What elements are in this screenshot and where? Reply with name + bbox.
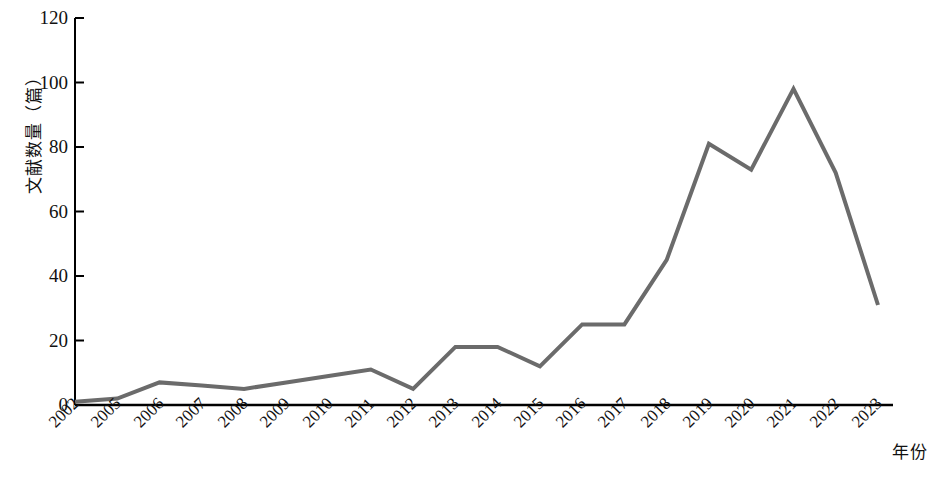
y-axis-tick-marks — [75, 18, 84, 405]
chart-figure: 文献数量（篇） 020406080100120 2002200520062007… — [0, 0, 933, 489]
figure-caption — [150, 479, 620, 488]
data-series-line — [75, 89, 878, 402]
x-axis-title: 年份 — [892, 438, 928, 463]
